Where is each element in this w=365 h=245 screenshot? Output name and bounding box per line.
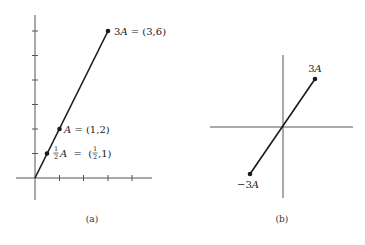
frac2-den: 2 <box>93 153 97 161</box>
label-a: A = (1,2) <box>63 124 110 135</box>
label-half-a-text: A = ( <box>59 148 92 159</box>
label-half-a-close: ,1) <box>98 148 112 159</box>
label-3a: 3A <box>308 63 322 74</box>
label-half-a: 1 2 A = ( 1 2 ,1) <box>54 145 112 161</box>
point-3a <box>313 77 318 82</box>
caption-a: (a) <box>86 214 98 224</box>
panel-a: 3A = (3,6) A = (1,2) 1 2 A = ( 1 2 ,1) (… <box>16 15 166 224</box>
frac-num: 1 <box>54 145 58 153</box>
point-a <box>57 127 62 132</box>
label-neg-3a: −3A <box>237 179 259 190</box>
point-neg-3a <box>248 172 253 177</box>
point-half-a <box>45 151 50 156</box>
label-3a: 3A = (3,6) <box>114 26 166 37</box>
vector-scaling-figure: 3A = (3,6) A = (1,2) 1 2 A = ( 1 2 ,1) (… <box>0 0 365 245</box>
panel-b: 3A −3A (b) <box>210 55 353 224</box>
point-3a <box>106 29 111 34</box>
caption-b: (b) <box>276 214 289 224</box>
frac-den: 2 <box>54 153 58 161</box>
frac2-num: 1 <box>93 145 97 153</box>
